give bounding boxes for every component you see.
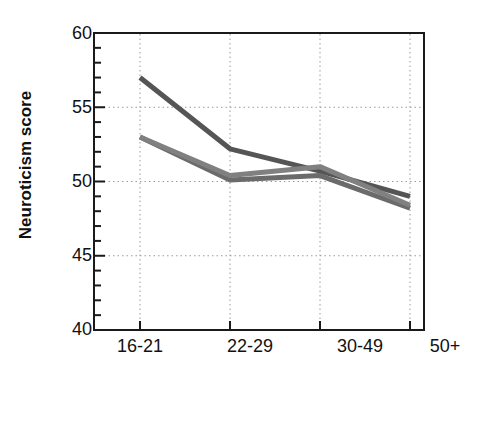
neuroticism-by-age-chart: Neuroticism score 60 55 50 45 40 16-21 2…	[0, 0, 503, 422]
plot-area	[0, 0, 503, 422]
